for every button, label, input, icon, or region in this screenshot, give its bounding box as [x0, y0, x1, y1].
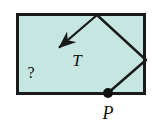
- vector-label-T: T: [72, 51, 83, 70]
- diagram-canvas: T P ?: [0, 0, 159, 130]
- unknown-question-mark-label: ?: [27, 64, 34, 81]
- point-p-marker: [103, 88, 113, 98]
- point-label-P: P: [102, 103, 114, 123]
- figure-container: T P ?: [0, 0, 159, 130]
